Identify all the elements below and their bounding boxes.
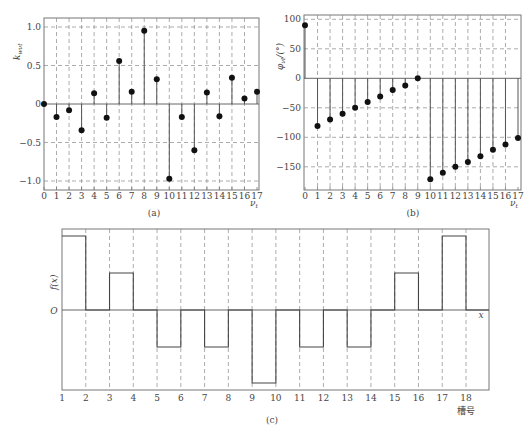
x-tick-label: 9 bbox=[154, 191, 160, 201]
data-point bbox=[116, 58, 122, 64]
data-point bbox=[129, 89, 135, 95]
data-point bbox=[141, 28, 147, 34]
x-tick-label: 13 bbox=[462, 191, 474, 201]
x-tick-label: 2 bbox=[327, 191, 333, 201]
x-tick-label: 17 bbox=[437, 393, 449, 403]
y-tick-label: −100 bbox=[276, 132, 301, 142]
x-tick-label: 2 bbox=[83, 393, 89, 403]
x-tick-label: 8 bbox=[225, 393, 231, 403]
plot-frame bbox=[304, 15, 521, 190]
data-point bbox=[402, 82, 408, 88]
x-tick-label: 13 bbox=[201, 191, 213, 201]
data-point bbox=[216, 113, 222, 119]
x-tick-label: 14 bbox=[365, 393, 377, 403]
x-tick-label: 4 bbox=[130, 393, 136, 403]
y-tick-label: −50 bbox=[282, 103, 301, 113]
data-point bbox=[315, 123, 321, 129]
data-point bbox=[229, 75, 235, 81]
y-axis-label: φνt/(°) bbox=[275, 43, 286, 70]
x-tick-label: 18 bbox=[460, 393, 472, 403]
y-tick-label: −0.5 bbox=[19, 138, 41, 148]
x-tick-label: 10 bbox=[164, 191, 176, 201]
data-point bbox=[302, 22, 308, 28]
x-tick-label: 12 bbox=[450, 191, 461, 201]
caption-a: (a) bbox=[148, 208, 160, 218]
data-point bbox=[340, 111, 346, 117]
x-tick-label: 16 bbox=[239, 191, 251, 201]
x-tick-label: 2 bbox=[66, 191, 72, 201]
x-tick-label: 4 bbox=[352, 191, 358, 201]
x-tick-label: 1 bbox=[315, 191, 321, 201]
x-tick-label: 10 bbox=[425, 191, 437, 201]
x-tick-label: 5 bbox=[154, 393, 160, 403]
x-tick-label: 7 bbox=[202, 393, 208, 403]
data-point bbox=[465, 159, 471, 165]
y-tick-label: 1.0 bbox=[27, 22, 42, 32]
data-point bbox=[352, 105, 358, 111]
x-axis-label: 槽号 bbox=[457, 405, 475, 416]
x-tick-label: 5 bbox=[365, 191, 371, 201]
caption-b: (b) bbox=[407, 208, 420, 218]
data-point bbox=[179, 114, 185, 120]
data-point bbox=[515, 135, 521, 141]
x-tick-label: 6 bbox=[377, 191, 383, 201]
x-tick-label: 1 bbox=[59, 393, 65, 403]
x-tick-label: 3 bbox=[79, 191, 85, 201]
x-tick-label: 3 bbox=[107, 393, 113, 403]
x-tick-label: 15 bbox=[389, 393, 401, 403]
data-point bbox=[502, 141, 508, 147]
x-tick-label: 15 bbox=[226, 191, 238, 201]
x-tick-label: 16 bbox=[413, 393, 425, 403]
data-point bbox=[204, 89, 210, 95]
y-tick-label: −150 bbox=[276, 162, 301, 172]
x-tick-label: 10 bbox=[270, 393, 282, 403]
y-tick-label: −1.0 bbox=[19, 176, 41, 186]
x-variable-label: x bbox=[478, 310, 483, 320]
x-tick-label: 12 bbox=[189, 191, 200, 201]
data-point bbox=[241, 96, 247, 102]
data-point bbox=[440, 170, 446, 176]
data-point bbox=[427, 176, 433, 182]
x-tick-label: 4 bbox=[91, 191, 97, 201]
x-tick-label: 6 bbox=[116, 191, 122, 201]
data-point bbox=[154, 76, 160, 82]
x-tick-label: 5 bbox=[104, 191, 110, 201]
chart-b-phase-angle: 100500−50−100−15001234567891011121314151… bbox=[275, 14, 524, 218]
data-point bbox=[166, 176, 172, 182]
data-point bbox=[377, 94, 383, 100]
data-point bbox=[54, 114, 60, 120]
x-tick-label: 8 bbox=[402, 191, 408, 201]
caption-c: (c) bbox=[266, 415, 278, 425]
y-axis-label: f(x) bbox=[49, 274, 59, 291]
x-tick-label: 13 bbox=[341, 393, 353, 403]
x-tick-label: 0 bbox=[41, 191, 47, 201]
data-point bbox=[415, 75, 421, 81]
data-point bbox=[79, 127, 85, 133]
x-tick-label: 11 bbox=[437, 191, 448, 201]
chart-a-winding-factor: 1.00.50−0.5−1.00123456789101112131415161… bbox=[12, 18, 263, 218]
x-tick-label: 7 bbox=[390, 191, 396, 201]
data-point bbox=[91, 90, 97, 96]
x-tick-label: 12 bbox=[318, 393, 329, 403]
data-point bbox=[41, 101, 47, 107]
y-tick-label: 50 bbox=[290, 44, 302, 54]
x-tick-label: 11 bbox=[176, 191, 187, 201]
x-tick-label: 1 bbox=[54, 191, 60, 201]
data-point bbox=[490, 147, 496, 153]
data-point bbox=[452, 164, 458, 170]
data-point bbox=[365, 99, 371, 105]
x-tick-label: 15 bbox=[487, 191, 499, 201]
x-tick-label: 9 bbox=[249, 393, 255, 403]
x-tick-label: 8 bbox=[141, 191, 147, 201]
origin-label: O bbox=[50, 306, 58, 316]
y-axis-label: kwνt bbox=[12, 43, 23, 60]
data-point bbox=[66, 107, 72, 113]
data-point bbox=[104, 115, 110, 121]
x-tick-label: 6 bbox=[178, 393, 184, 403]
y-tick-label: 100 bbox=[284, 14, 301, 24]
figure: 1.00.50−0.5−1.00123456789101112131415161… bbox=[0, 0, 529, 440]
data-point bbox=[390, 87, 396, 93]
x-tick-label: 7 bbox=[129, 191, 135, 201]
data-point bbox=[191, 147, 197, 153]
x-tick-label: 3 bbox=[340, 191, 346, 201]
